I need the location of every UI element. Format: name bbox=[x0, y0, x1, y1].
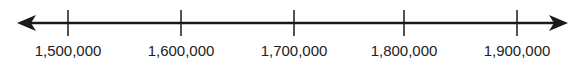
tick-label-0: 1,500,000 bbox=[35, 42, 102, 59]
tick-label-1: 1,600,000 bbox=[148, 42, 215, 59]
tick-label-2: 1,700,000 bbox=[261, 42, 328, 59]
tick-label-3: 1,800,000 bbox=[371, 42, 438, 59]
tick-label-4: 1,900,000 bbox=[484, 42, 551, 59]
